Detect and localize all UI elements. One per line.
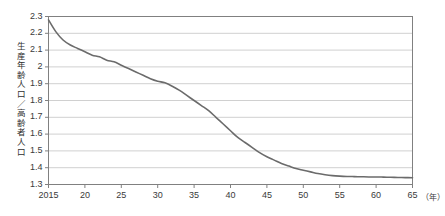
- x-axis-tick-label: 20: [65, 190, 105, 200]
- x-axis-tick-label: 2015: [29, 190, 69, 200]
- gridlines: [49, 33, 413, 167]
- y-axis-tick-label: 1.3: [21, 179, 43, 189]
- data-series-line: [49, 20, 413, 178]
- y-axis-tick-label: 2.3: [21, 11, 43, 21]
- y-axis-ticks: [45, 17, 49, 185]
- x-axis-tick-label: 45: [247, 190, 287, 200]
- x-axis-tick-label: 55: [320, 190, 360, 200]
- y-axis-tick-label: 2: [21, 61, 43, 71]
- y-axis-tick-label: 1.7: [21, 111, 43, 121]
- y-axis-tick-label: 1.6: [21, 128, 43, 138]
- x-axis-ticks: [49, 185, 413, 189]
- x-axis-unit-label: （年）: [421, 191, 445, 202]
- y-axis-tick-label: 1.9: [21, 78, 43, 88]
- x-axis-tick-label: 40: [211, 190, 251, 200]
- x-axis-tick-label: 30: [138, 190, 178, 200]
- y-axis-tick-label: 1.8: [21, 95, 43, 105]
- chart-container: 生産年齢人口／高齢者人口 1.31.41.51.61.71.81.922.12.…: [0, 0, 445, 216]
- plot-area: [0, 0, 445, 216]
- x-axis-tick-label: 60: [356, 190, 396, 200]
- x-axis-tick-label: 50: [283, 190, 323, 200]
- y-axis-tick-label: 1.4: [21, 162, 43, 172]
- y-axis-tick-label: 2.1: [21, 44, 43, 54]
- x-axis-tick-label: 25: [101, 190, 141, 200]
- x-axis-tick-label: 35: [174, 190, 214, 200]
- y-axis-tick-label: 2.2: [21, 27, 43, 37]
- y-axis-tick-label: 1.5: [21, 145, 43, 155]
